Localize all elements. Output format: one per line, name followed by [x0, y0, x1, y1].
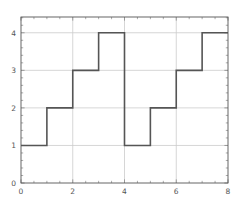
chart-figure: 02468 01234: [0, 0, 237, 208]
y-tick-label: 4: [11, 29, 16, 38]
step-series-line: [21, 33, 228, 146]
x-tick-label: 2: [70, 187, 75, 196]
x-tick-label: 6: [174, 187, 179, 196]
y-tick-label: 0: [11, 179, 16, 188]
y-tick-label: 3: [11, 66, 16, 75]
y-tick-label: 2: [11, 104, 16, 113]
x-tick-label: 8: [226, 187, 231, 196]
x-tick-label: 0: [19, 187, 24, 196]
step-line-path: [21, 33, 228, 146]
y-tick-label: 1: [11, 141, 16, 150]
x-axis-tick-labels: 02468: [19, 187, 231, 196]
x-tick-label: 4: [122, 187, 127, 196]
step-chart-svg: 02468 01234: [0, 0, 237, 208]
y-axis-tick-labels: 01234: [11, 29, 16, 188]
